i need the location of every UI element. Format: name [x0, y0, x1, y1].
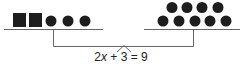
circle-unit [221, 16, 232, 27]
left-pan-items [13, 13, 91, 27]
circle-unit [197, 2, 208, 13]
coefficient: 2 [94, 50, 101, 64]
circle-unit [182, 2, 193, 13]
circle-unit [174, 16, 185, 27]
right-pan-items [158, 2, 232, 27]
circle-unit [205, 16, 216, 27]
circle-unit [213, 2, 224, 13]
circle-unit [46, 16, 57, 27]
square-x-2 [29, 13, 42, 27]
circle-unit [190, 16, 201, 27]
circle-unit [158, 16, 169, 27]
square-x-1 [13, 13, 26, 27]
circle-unit [63, 16, 74, 27]
equation-rest: + 3 = 9 [107, 50, 148, 64]
circle-unit [80, 16, 91, 27]
equation: 2x + 3 = 9 [0, 50, 242, 64]
circle-unit [167, 2, 178, 13]
